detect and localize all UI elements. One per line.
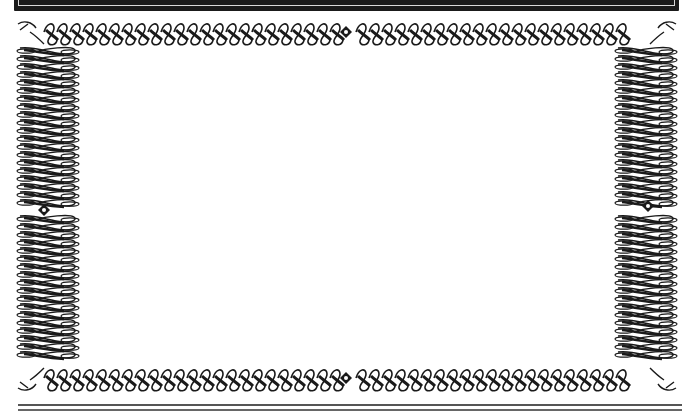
top-black-bar xyxy=(14,0,679,11)
certificate-content-area xyxy=(80,60,610,350)
bottom-double-rule xyxy=(18,404,682,413)
top-border xyxy=(44,24,630,45)
top-bar-inner-rule xyxy=(18,0,675,6)
bottom-rule-2 xyxy=(18,409,682,411)
left-border xyxy=(17,48,79,359)
bottom-rule-1 xyxy=(18,404,682,406)
right-border xyxy=(615,48,677,359)
bottom-border xyxy=(44,370,630,391)
